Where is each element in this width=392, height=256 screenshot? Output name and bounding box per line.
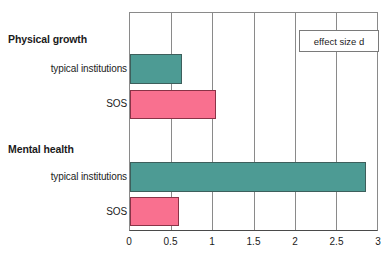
x-tick-3: 3	[375, 236, 381, 247]
category-label-mental-typical-institutions: typical institutions	[51, 171, 127, 182]
x-tick-2: 2	[292, 236, 298, 247]
bar-mental-typical-institutions	[130, 162, 366, 192]
group-heading-physical-growth: Physical growth	[8, 33, 87, 45]
x-tick-1-5: 1.5	[247, 236, 261, 247]
gridline-2	[295, 13, 296, 230]
gridline-1	[212, 13, 213, 230]
x-tick-1: 1	[209, 236, 215, 247]
bar-chart: Physical growth Mental health typical in…	[0, 0, 392, 256]
bar-physical-sos	[130, 90, 216, 119]
category-label-physical-sos: SOS	[106, 98, 127, 109]
bar-physical-typical-institutions	[130, 54, 182, 84]
legend: effect size d	[299, 30, 379, 52]
x-tick-0-5: 0.5	[164, 236, 178, 247]
x-tick-0: 0	[126, 236, 132, 247]
bar-mental-sos	[130, 197, 179, 226]
x-tick-2-5: 2.5	[330, 236, 344, 247]
category-label-mental-sos: SOS	[106, 206, 127, 217]
group-heading-mental-health: Mental health	[8, 143, 74, 155]
category-label-physical-typical-institutions: typical institutions	[51, 63, 127, 74]
gridline-1-5	[254, 13, 255, 230]
legend-label: effect size d	[314, 36, 365, 47]
